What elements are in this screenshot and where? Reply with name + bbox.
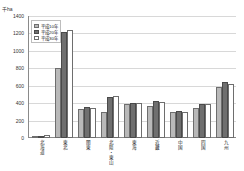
y-axis-tick-label: 1400	[13, 13, 24, 19]
x-axis-label-text: 東海	[130, 140, 135, 171]
y-axis-tick-label: 1000	[13, 48, 24, 54]
bar-group	[121, 16, 144, 138]
bar	[228, 84, 234, 138]
y-axis-tick-label: 800	[16, 65, 24, 71]
legend-swatch	[34, 36, 39, 40]
x-axis-label-text: 関東	[84, 140, 89, 171]
legend-swatch	[34, 30, 39, 34]
y-axis-unit-label: 千ha	[2, 5, 13, 12]
x-axis-labels: 北海道東北関東北陸・東山東海近畿中国四国九州	[29, 140, 236, 171]
bar-group	[167, 16, 190, 138]
bar-group	[75, 16, 98, 138]
x-axis-label: 北陸・東山	[98, 140, 121, 171]
y-axis-tick-label: 400	[16, 100, 24, 106]
bar	[44, 135, 50, 138]
x-axis-label: 四国	[190, 140, 213, 171]
y-axis-tick-label: 600	[16, 83, 24, 89]
x-axis-label: 関東	[75, 140, 98, 171]
x-axis-label: 近畿	[144, 140, 167, 171]
x-axis-label-text: 中国	[176, 140, 181, 171]
x-axis-label-text: 北陸・東山	[107, 140, 112, 171]
y-axis-ticks: 0200400600800100012001400	[0, 16, 26, 138]
bar-group	[98, 16, 121, 138]
bar-chart: 千ha 0200400600800100012001400 北海道東北関東北陸・…	[0, 0, 244, 171]
x-axis-label-text: 東北	[61, 140, 66, 171]
bar	[136, 103, 142, 138]
x-axis-label-text: 九州	[222, 140, 227, 171]
legend-label: 平成30年	[41, 35, 58, 41]
legend-swatch	[34, 24, 39, 28]
x-axis-label: 東北	[52, 140, 75, 171]
x-axis-label-text: 四国	[199, 140, 204, 171]
legend-item[interactable]: 平成30年	[34, 35, 58, 41]
x-axis-label-text: 北海道	[38, 140, 43, 171]
bar-group	[190, 16, 213, 138]
bar	[90, 108, 96, 139]
bar	[113, 96, 119, 138]
bar	[182, 112, 188, 138]
x-axis-label: 中国	[167, 140, 190, 171]
y-axis-tick-label: 1200	[13, 30, 24, 36]
bar-group	[213, 16, 236, 138]
bar	[67, 30, 73, 138]
bar-group	[144, 16, 167, 138]
x-axis-label: 九州	[213, 140, 236, 171]
bar	[159, 102, 165, 138]
x-axis-label: 北海道	[29, 140, 52, 171]
y-axis-tick-label: 200	[16, 118, 24, 124]
chart-legend: 平成10年平成20年平成30年	[31, 20, 61, 43]
x-axis-label: 東海	[121, 140, 144, 171]
x-axis-label-text: 近畿	[153, 140, 158, 171]
y-axis-tick-label: 0	[21, 135, 24, 141]
bar	[205, 104, 211, 138]
